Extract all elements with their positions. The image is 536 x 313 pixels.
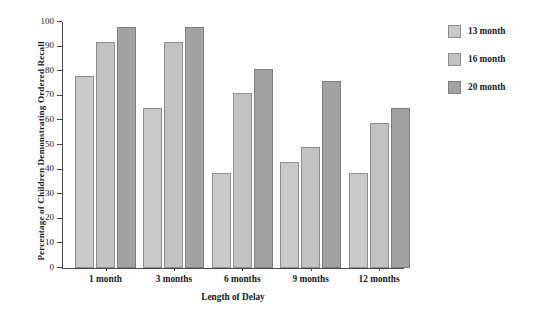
bar (301, 147, 320, 268)
bar (164, 42, 183, 268)
plot-area: 0102030405060708090100 1 month3 months6 … (62, 22, 404, 268)
y-axis-tick: 90 (57, 46, 62, 47)
x-axis-tick (174, 268, 175, 271)
bar-group (143, 22, 204, 268)
bar (185, 27, 204, 268)
y-axis-tick: 30 (57, 193, 62, 194)
y-axis-tick: 0 (57, 267, 62, 268)
legend-label: 20 month (468, 82, 505, 92)
y-axis-tick-label: 0 (28, 261, 54, 273)
legend-item: 16 month (448, 52, 505, 66)
y-axis-tick: 100 (57, 21, 62, 22)
y-axis-tick-label: 20 (28, 211, 54, 223)
y-axis-tick-label: 70 (28, 88, 54, 100)
legend-label: 16 month (468, 54, 505, 64)
y-axis-tick-label: 30 (28, 187, 54, 199)
y-axis-tick-label: 80 (28, 64, 54, 76)
bar (280, 162, 299, 268)
bar-chart-figure: Percentage of Children Demonstrating Ord… (0, 0, 536, 313)
y-axis-tick-label: 50 (28, 138, 54, 150)
x-axis-tick-label: 12 months (339, 274, 419, 284)
bar-group (280, 22, 341, 268)
bar (349, 173, 368, 268)
bar (143, 108, 162, 268)
bar (322, 81, 341, 268)
y-axis-tick: 70 (57, 95, 62, 96)
bar-group (212, 22, 273, 268)
bar-group (349, 22, 410, 268)
legend-item: 13 month (448, 24, 505, 38)
x-axis-title: Length of Delay (62, 292, 404, 302)
y-axis-tick-label: 100 (28, 15, 54, 27)
legend-swatch (448, 25, 461, 38)
y-axis-tick: 50 (57, 144, 62, 145)
bar (96, 42, 115, 268)
y-axis-line (62, 22, 63, 268)
y-axis-tick-label: 40 (28, 162, 54, 174)
bar (233, 93, 252, 268)
x-axis-tick (106, 268, 107, 271)
y-axis-tick: 40 (57, 169, 62, 170)
legend: 13 month16 month20 month (448, 24, 505, 108)
legend-swatch (448, 81, 461, 94)
legend-swatch (448, 53, 461, 66)
legend-item: 20 month (448, 80, 505, 94)
y-axis-tick: 20 (57, 218, 62, 219)
y-axis-tick: 10 (57, 242, 62, 243)
x-axis-tick (311, 268, 312, 271)
x-axis-line (62, 268, 404, 269)
y-axis-tick-label: 10 (28, 236, 54, 248)
y-axis-tick-label: 60 (28, 113, 54, 125)
bar (212, 173, 231, 268)
bar (117, 27, 136, 268)
legend-label: 13 month (468, 26, 505, 36)
y-axis-tick: 80 (57, 70, 62, 71)
bar (391, 108, 410, 268)
bar (254, 69, 273, 268)
x-axis-tick (379, 268, 380, 271)
x-axis-tick (242, 268, 243, 271)
bar-group (75, 22, 136, 268)
y-axis-tick-label: 90 (28, 39, 54, 51)
y-axis-tick: 60 (57, 119, 62, 120)
bar (370, 123, 389, 268)
bar (75, 76, 94, 268)
